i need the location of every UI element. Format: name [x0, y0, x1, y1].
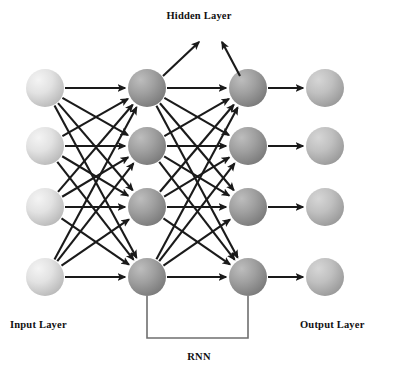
hidden-callout-left: [163, 42, 199, 76]
edges-hidden2-to-output: [268, 88, 303, 277]
edges-hidden1-to-hidden2: [156, 88, 237, 277]
neuron-h1c: [128, 188, 166, 226]
neuron-h2d: [229, 258, 267, 296]
hidden-layer-label: Hidden Layer: [0, 10, 398, 21]
rnn-loop-path: [147, 296, 248, 338]
edges-input-to-hidden1: [55, 88, 137, 277]
hidden-callout-right: [222, 42, 240, 76]
rnn-feedback-loop: [147, 296, 248, 338]
neuron-h1d: [128, 258, 166, 296]
neuron-h2a: [229, 69, 267, 107]
output-layer-label: Output Layer: [300, 319, 365, 330]
neuron-o3: [306, 188, 344, 226]
neuron-h2c: [229, 188, 267, 226]
neuron-h1b: [128, 127, 166, 165]
neuron-i4: [26, 258, 64, 296]
neuron-i2: [26, 127, 64, 165]
hidden-layer-callout-arrows: [163, 42, 240, 76]
input-layer-label: Input Layer: [10, 319, 67, 330]
rnn-label: RNN: [0, 351, 398, 362]
neuron-i1: [26, 69, 64, 107]
neuron-h1a: [128, 69, 166, 107]
neuron-h2b: [229, 127, 267, 165]
neural-network-diagram: Hidden Layer Input Layer Output Layer RN…: [0, 0, 398, 380]
neuron-o1: [306, 69, 344, 107]
neuron-i3: [26, 188, 64, 226]
neuron-o2: [306, 127, 344, 165]
neuron-o4: [306, 258, 344, 296]
